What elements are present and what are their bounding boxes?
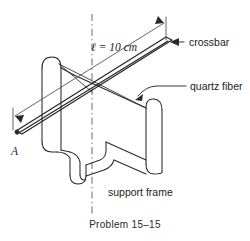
crossbar-lower-edge-highlight [17,41,168,134]
quartz-fiber-leader-line [138,86,186,96]
quartz-fiber-label: quartz fiber [190,80,243,92]
frame-left-arm-bottom-depth [61,150,70,152]
quartz-fiber-callout-leader [135,86,186,101]
frame-foot-u-inner [80,175,85,180]
dimension-line [15,23,164,116]
crossbar-callout-leader [170,38,184,46]
dimension-arrow-right-icon [155,16,164,24]
frame-left-bottom-bend [42,141,57,152]
crossbar-label: crossbar [189,36,230,48]
frame-left-arm-rounded-top [42,57,61,68]
frame-bottom-right-rail-lower-run [114,160,146,174]
frame-bottom-right-riser-inner [86,142,106,165]
frame-right-arm-bottom-cap [146,164,162,174]
frame-foot-u-outer [70,165,86,184]
frame-top-back-rail [74,75,146,108]
point-a-label: A [10,145,19,157]
support-frame-label: support frame [108,186,173,198]
support-frame [42,57,162,184]
frame-bottom-right-rail-upper [106,142,146,160]
frame-right-arm-rounded-top [146,99,162,110]
length-dimension [13,16,166,130]
dimension-arrow-left-icon [15,115,24,123]
frame-bottom-left-elbow-outer [57,152,70,175]
crossbar-left-end-tip [15,130,19,134]
length-label: ℓ = 10 cm [91,41,137,53]
physics-figure: ℓ = 10 cm crossbar quartz fiber support … [0,0,250,241]
quartz-fiber-upper-segment [59,64,146,108]
figure-caption: Problem 15–15 [89,219,161,230]
frame-bottom-left-elbow-inner [70,152,80,175]
figure-canvas: ℓ = 10 cm crossbar quartz fiber support … [0,0,250,241]
frame-bottom-right-rail-lower [86,160,114,176]
